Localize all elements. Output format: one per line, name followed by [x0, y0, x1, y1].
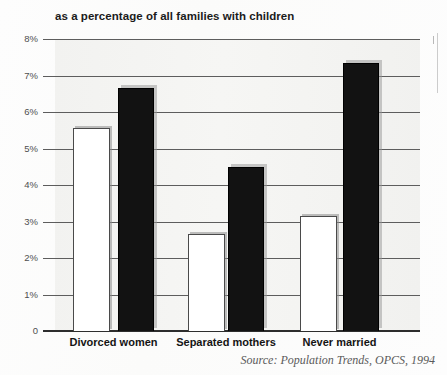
bar-black-0 — [118, 88, 154, 331]
y-tick-mark — [43, 222, 55, 223]
page-title: as a percentage of all families with chi… — [55, 10, 294, 22]
y-tick-label: 1% — [8, 289, 38, 300]
x-axis-label-2: Never married — [270, 336, 410, 348]
y-tick-label: 2% — [8, 252, 38, 263]
y-tick-mark — [43, 185, 55, 186]
plot-area — [55, 39, 420, 331]
y-tick-label: 0 — [8, 325, 38, 336]
y-tick-label: 7% — [8, 70, 38, 81]
y-tick-label: 4% — [8, 179, 38, 190]
y-tick-mark — [43, 295, 55, 296]
source-note: Source: Population Trends, OPCS, 1994 — [241, 353, 435, 368]
bar-white-0 — [73, 128, 110, 331]
bar-black-1 — [228, 167, 264, 331]
y-tick-mark — [43, 330, 55, 332]
y-tick-label: 6% — [8, 106, 38, 117]
y-tick-mark — [43, 76, 55, 77]
y-tick-label: 3% — [8, 216, 38, 227]
gridline-8pct — [55, 39, 420, 40]
page-edge-artifact-secondary — [433, 36, 434, 44]
bar-white-2 — [300, 216, 337, 331]
y-tick-label: 8% — [8, 33, 38, 44]
y-tick-mark — [43, 149, 55, 150]
y-tick-label: 5% — [8, 143, 38, 154]
y-tick-mark — [43, 39, 55, 40]
bar-black-2 — [343, 63, 379, 331]
y-tick-mark — [43, 112, 55, 113]
y-tick-mark — [43, 258, 55, 259]
bar-white-1 — [188, 234, 225, 331]
page-edge-artifact — [437, 33, 438, 93]
